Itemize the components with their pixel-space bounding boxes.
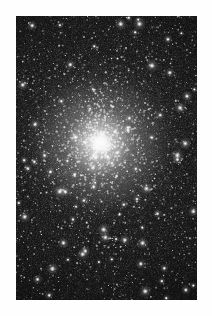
- astronomical-image-plate: [16, 16, 197, 300]
- sky-noise-canvas: [16, 16, 197, 300]
- figure-page: Dense globular star cluster with bright …: [0, 0, 212, 316]
